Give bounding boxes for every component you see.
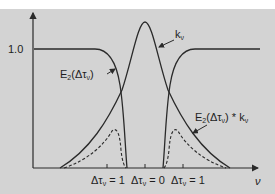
k-curve	[60, 22, 230, 168]
k-arrow	[159, 40, 174, 47]
x-tick-label-1b: Δτν = 1	[171, 174, 205, 187]
x-tick-label-0: Δτν = 0	[131, 174, 165, 187]
figure-frame: 1.0 kν E2(Δτν) E2(Δτν) * kν Δτν = 1 Δτν …	[0, 0, 275, 194]
k-label: kν	[175, 28, 185, 41]
y-tick-label: 1.0	[8, 43, 23, 55]
product-label: E2(Δτν) * kν	[195, 111, 249, 124]
e2-label: E2(Δτν)	[60, 68, 94, 81]
prod-arrow	[193, 125, 207, 133]
e2-arrow	[107, 69, 115, 74]
x-tick-label-1: Δτν = 1	[91, 174, 125, 187]
chart: 1.0 kν E2(Δτν) E2(Δτν) * kν Δτν = 1 Δτν …	[0, 0, 275, 194]
x-axis-label: ν	[255, 175, 261, 187]
